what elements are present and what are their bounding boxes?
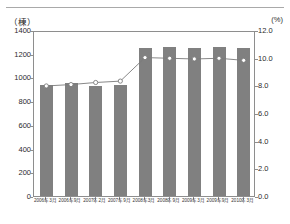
line-marker [168,56,172,60]
left-axis-tick-label: 1200 [5,51,31,59]
line-marker [217,56,221,60]
right-axis-tick-label: 8.0 [258,82,284,90]
x-axis-tick-label: 2009年3月 [182,199,205,204]
line-marker [44,84,48,88]
left-axis-tickmark [30,197,33,198]
right-axis-tick-label: 2.0 [258,165,284,173]
left-axis-tick-label: 200 [5,169,31,177]
right-axis-tick-label: 6.0 [258,110,284,118]
x-axis-tick-label: 2010年3月 [231,199,254,204]
right-axis-unit-label: (%) [271,15,283,24]
line-series [34,32,256,198]
divider-rule [6,7,284,8]
line-marker [143,55,147,59]
right-axis-tick-label: 12.0 [258,27,284,35]
x-axis-tick-label: 2007年2月 [83,199,106,204]
line-marker [118,79,122,83]
right-axis-tick-label: 4.0 [258,138,284,146]
right-axis-tick-label: 10.0 [258,55,284,63]
x-axis-tick-label: 2008年3月 [133,199,156,204]
chart-figure: （棟） (%) 0200400600800100012001400 0.02.0… [0,0,290,224]
left-axis-tick-label: 1000 [5,74,31,82]
left-axis-tick-label: 1400 [5,27,31,35]
left-axis-tick-label: 600 [5,122,31,130]
plot-area [33,31,255,197]
left-axis-tick-label: 800 [5,98,31,106]
line-marker [94,80,98,84]
x-axis-tick-label: 2006年9月 [59,199,82,204]
x-axis-tick-label: 2008年9月 [157,199,180,204]
line-marker [242,58,246,62]
line-marker [192,57,196,61]
x-axis-tick-label: 2009年9月 [207,199,230,204]
x-axis-tick-label: 2007年9月 [108,199,131,204]
line-marker [69,82,73,86]
line-path [46,58,243,86]
x-axis-tick-label: 2006年3月 [34,199,57,204]
left-axis-tick-label: 400 [5,146,31,154]
x-axis-labels: 2006年3月2006年9月2007年2月2007年9月2008年3月2008年… [0,199,290,215]
